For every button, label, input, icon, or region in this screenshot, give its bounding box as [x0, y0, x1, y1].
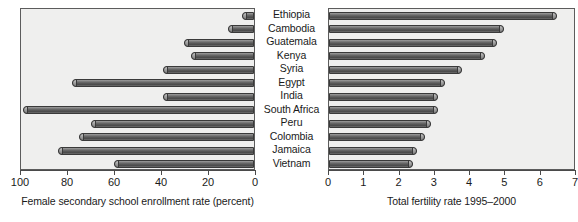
bar-row: [21, 117, 254, 131]
bar-fertility-india: [329, 93, 438, 101]
right-plot-panel: [328, 8, 575, 170]
axis-tick: [328, 170, 329, 175]
axis-tick-label: 0: [325, 176, 331, 188]
axis-tick: [255, 170, 256, 175]
bar-end-cap: [163, 66, 168, 74]
bar-enrollment-kenya: [191, 52, 254, 60]
axis-tick-label: 7: [572, 176, 578, 188]
bar-enrollment-jamaica: [58, 147, 254, 155]
bar-end-cap: [23, 106, 28, 114]
bar-end-cap: [480, 52, 485, 60]
bar-row: [329, 63, 574, 77]
bar-row: [329, 90, 574, 104]
axis-tick: [575, 170, 576, 175]
bar-end-cap: [79, 133, 84, 141]
axis-tick: [114, 170, 115, 175]
paired-bar-chart-figure: EthiopiaCambodiaGuatemalaKenyaSyriaEgypt…: [0, 0, 578, 222]
left-plot-panel: [20, 8, 255, 170]
bar-end-cap: [412, 147, 417, 155]
bar-row: [329, 104, 574, 118]
axis-tick-label: 3: [431, 176, 437, 188]
category-label-jamaica: Jamaica: [255, 143, 328, 157]
bar-fertility-vietnam: [329, 160, 413, 168]
category-label-south-africa: South Africa: [255, 103, 328, 117]
left-bar-rows: [21, 9, 254, 169]
axis-tick: [434, 170, 435, 175]
bar-row: [329, 50, 574, 64]
bar-end-cap: [552, 12, 557, 20]
category-label-peru: Peru: [255, 116, 328, 130]
right-x-tick-labels: 01234567: [328, 176, 575, 190]
axis-tick-label: 2: [396, 176, 402, 188]
axis-tick: [161, 170, 162, 175]
bar-row: [21, 158, 254, 172]
left-x-tick-labels: 100806040200: [20, 176, 255, 190]
bar-end-cap: [408, 160, 413, 168]
bar-end-cap: [91, 120, 96, 128]
bar-fertility-colombia: [329, 133, 425, 141]
bar-enrollment-syria: [163, 66, 254, 74]
bar-end-cap: [433, 93, 438, 101]
axis-tick: [20, 170, 21, 175]
left-axis-line: [20, 170, 255, 171]
right-axis-title: Total fertility rate 1995–2000: [328, 195, 575, 207]
bar-row: [21, 131, 254, 145]
axis-tick: [363, 170, 364, 175]
axis-tick: [504, 170, 505, 175]
axis-tick-label: 60: [108, 176, 120, 188]
category-label-india: India: [255, 89, 328, 103]
bar-end-cap: [58, 147, 63, 155]
bar-fertility-south-africa: [329, 106, 438, 114]
bar-end-cap: [426, 120, 431, 128]
bar-fertility-cambodia: [329, 25, 504, 33]
bar-end-cap: [499, 25, 504, 33]
category-axis-labels: EthiopiaCambodiaGuatemalaKenyaSyriaEgypt…: [255, 8, 328, 170]
category-label-egypt: Egypt: [255, 76, 328, 90]
axis-tick-label: 1: [360, 176, 366, 188]
bar-enrollment-peru: [91, 120, 254, 128]
bar-fertility-peru: [329, 120, 431, 128]
bar-enrollment-guatemala: [184, 39, 254, 47]
category-label-syria: Syria: [255, 62, 328, 76]
bar-enrollment-india: [163, 93, 254, 101]
bar-end-cap: [433, 106, 438, 114]
bar-row: [329, 158, 574, 172]
bar-row: [329, 131, 574, 145]
category-label-colombia: Colombia: [255, 130, 328, 144]
bar-row: [329, 77, 574, 91]
bar-enrollment-colombia: [79, 133, 254, 141]
bar-enrollment-south-africa: [23, 106, 254, 114]
bar-end-cap: [184, 39, 189, 47]
category-label-ethiopia: Ethiopia: [255, 8, 328, 22]
bar-row: [329, 117, 574, 131]
bar-row: [329, 9, 574, 23]
bar-enrollment-ethiopia: [242, 12, 254, 20]
category-label-guatemala: Guatemala: [255, 35, 328, 49]
axis-tick: [399, 170, 400, 175]
axis-tick-label: 80: [61, 176, 73, 188]
bar-end-cap: [242, 12, 247, 20]
bar-enrollment-cambodia: [228, 25, 254, 33]
bar-fertility-jamaica: [329, 147, 417, 155]
bar-end-cap: [457, 66, 462, 74]
axis-tick-label: 4: [466, 176, 472, 188]
bar-fertility-syria: [329, 66, 462, 74]
bar-row: [21, 104, 254, 118]
bar-end-cap: [228, 25, 233, 33]
axis-tick-label: 40: [155, 176, 167, 188]
bar-end-cap: [492, 39, 497, 47]
bar-row: [21, 9, 254, 23]
axis-tick: [469, 170, 470, 175]
axis-tick-label: 0: [252, 176, 258, 188]
bar-row: [21, 23, 254, 37]
bar-enrollment-vietnam: [114, 160, 254, 168]
bar-row: [329, 23, 574, 37]
axis-tick: [67, 170, 68, 175]
bar-row: [21, 77, 254, 91]
bar-row: [329, 144, 574, 158]
right-bar-rows: [329, 9, 574, 169]
bar-end-cap: [72, 79, 77, 87]
bar-row: [21, 90, 254, 104]
bar-row: [21, 63, 254, 77]
bar-enrollment-egypt: [72, 79, 254, 87]
